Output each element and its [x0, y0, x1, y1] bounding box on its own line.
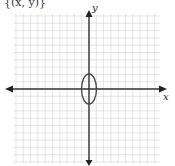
set-notation-fragment: {(x, y)}	[4, 0, 46, 9]
coordinate-graph: {(x, y)} x y	[0, 0, 175, 166]
y-axis-label: y	[91, 2, 98, 13]
x-axis-label: x	[163, 91, 169, 102]
x-axis-left-arrow-icon	[5, 86, 13, 93]
y-axis-down-arrow-icon	[86, 160, 93, 166]
